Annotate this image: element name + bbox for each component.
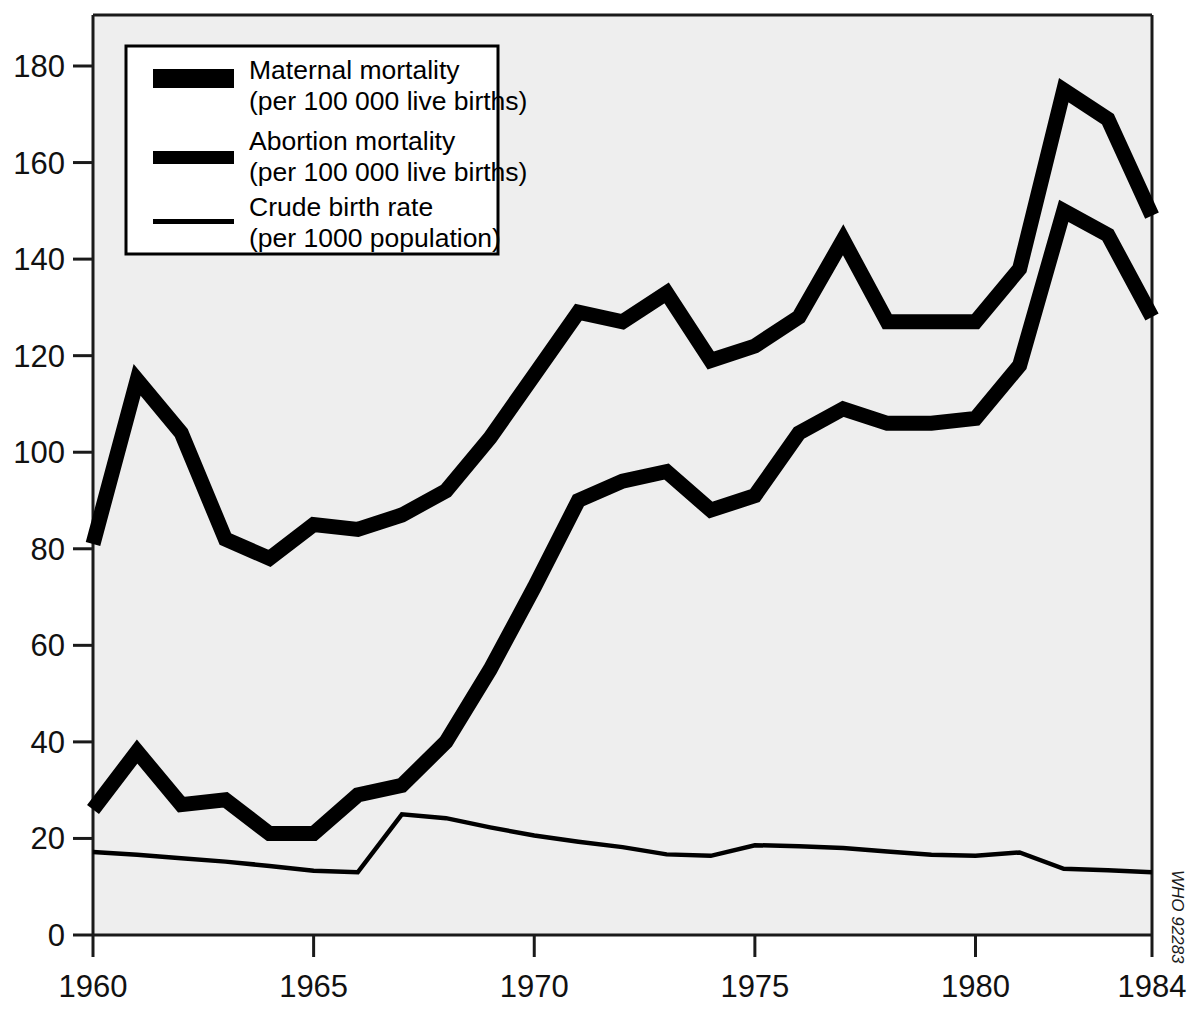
legend-swatch-abortion-mortality	[153, 151, 234, 164]
legend-swatch-crude-birth-rate	[153, 219, 234, 224]
y-axis-ticks: 020406080100120140160180	[13, 49, 93, 953]
y-tick-label: 100	[13, 435, 65, 470]
line-chart: 020406080100120140160180 196019651970197…	[0, 0, 1194, 1028]
y-tick-label: 120	[13, 339, 65, 374]
y-tick-label: 140	[13, 242, 65, 277]
legend-swatch-maternal-mortality	[153, 69, 234, 88]
x-axis-ticks: 196019651970197519801984	[59, 935, 1187, 1004]
legend-sublabel-maternal-mortality: (per 100 000 live births)	[249, 86, 527, 116]
y-tick-label: 160	[13, 146, 65, 181]
y-tick-label: 0	[48, 918, 65, 953]
x-tick-label: 1960	[59, 969, 128, 1004]
legend-label-maternal-mortality: Maternal mortality	[249, 55, 460, 85]
chart-figure: 020406080100120140160180 196019651970197…	[0, 0, 1194, 1028]
legend-sublabel-abortion-mortality: (per 100 000 live births)	[249, 157, 527, 187]
x-tick-label: 1984	[1118, 969, 1187, 1004]
chart-legend: Maternal mortality (per 100 000 live bir…	[126, 46, 527, 254]
x-tick-label: 1965	[279, 969, 348, 1004]
x-tick-label: 1980	[941, 969, 1010, 1004]
y-tick-label: 20	[31, 821, 65, 856]
y-tick-label: 40	[31, 725, 65, 760]
y-tick-label: 80	[31, 532, 65, 567]
x-tick-label: 1975	[720, 969, 789, 1004]
y-tick-label: 180	[13, 49, 65, 84]
legend-sublabel-crude-birth-rate: (per 1000 population)	[249, 223, 501, 253]
who-credit-label: WHO 92283	[1168, 870, 1187, 964]
legend-label-crude-birth-rate: Crude birth rate	[249, 192, 433, 222]
legend-label-abortion-mortality: Abortion mortality	[249, 126, 456, 156]
y-tick-label: 60	[31, 628, 65, 663]
x-tick-label: 1970	[500, 969, 569, 1004]
